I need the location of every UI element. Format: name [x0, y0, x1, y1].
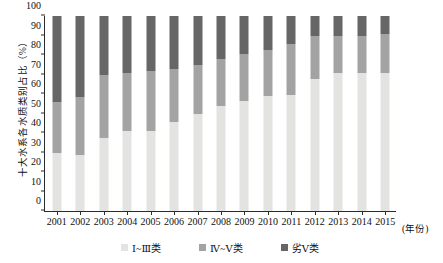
- bar-segment[interactable]: [263, 96, 272, 211]
- bar-segment[interactable]: [146, 131, 155, 211]
- bar-segment[interactable]: [193, 65, 202, 115]
- bar-slot: [162, 16, 185, 211]
- bar-segment[interactable]: [240, 101, 249, 211]
- bar-segment[interactable]: [52, 153, 61, 211]
- bar-segment[interactable]: [287, 95, 296, 211]
- x-tick-mark: [385, 211, 386, 215]
- y-tick-label: 20: [31, 156, 45, 167]
- bar-slot: [68, 16, 91, 211]
- bar-segment[interactable]: [357, 73, 366, 211]
- x-tick-label: 2012: [305, 216, 325, 227]
- bar-slot: [92, 16, 115, 211]
- bar-segment[interactable]: [146, 71, 155, 131]
- x-tick-label: 2010: [258, 216, 278, 227]
- y-tick-label: 60: [31, 78, 45, 89]
- stacked-bar[interactable]: [76, 16, 85, 211]
- stacked-bar[interactable]: [240, 16, 249, 211]
- x-tick-mark: [104, 211, 105, 215]
- bar-segment[interactable]: [123, 73, 132, 132]
- x-tick-mark: [174, 211, 175, 215]
- bar-segment[interactable]: [287, 44, 296, 95]
- bar-segment[interactable]: [381, 16, 390, 34]
- bar-segment[interactable]: [170, 69, 179, 123]
- chart-legend: Ⅰ~Ⅲ类Ⅳ~Ⅴ类劣Ⅴ类: [44, 240, 396, 255]
- x-tick-mark: [198, 211, 199, 215]
- legend-item[interactable]: Ⅳ~Ⅴ类: [199, 240, 243, 255]
- x-tick-mark: [244, 211, 245, 215]
- y-tick-label: 80: [31, 39, 45, 50]
- legend-label: Ⅰ~Ⅲ类: [132, 240, 161, 255]
- bar-series-group: [45, 16, 396, 211]
- bar-segment[interactable]: [123, 16, 132, 73]
- stacked-bar[interactable]: [334, 16, 343, 211]
- stacked-bar[interactable]: [381, 16, 390, 211]
- stacked-bar[interactable]: [146, 16, 155, 211]
- bar-segment[interactable]: [240, 16, 249, 54]
- bar-segment[interactable]: [357, 36, 366, 73]
- bar-segment[interactable]: [381, 34, 390, 73]
- bar-segment[interactable]: [99, 138, 108, 211]
- bar-segment[interactable]: [170, 16, 179, 69]
- x-tick-mark: [57, 211, 58, 215]
- legend-item[interactable]: Ⅰ~Ⅲ类: [121, 240, 161, 255]
- bar-slot: [233, 16, 256, 211]
- stacked-bar[interactable]: [170, 16, 179, 211]
- bar-segment[interactable]: [146, 16, 155, 71]
- y-tick-label: 90: [31, 19, 45, 30]
- bar-segment[interactable]: [216, 106, 225, 211]
- stacked-bar[interactable]: [99, 16, 108, 211]
- bar-segment[interactable]: [216, 16, 225, 59]
- x-tick-mark: [221, 211, 222, 215]
- bar-slot: [374, 16, 397, 211]
- x-tick-mark: [338, 211, 339, 215]
- stacked-bar[interactable]: [216, 16, 225, 211]
- bar-segment[interactable]: [52, 102, 61, 154]
- y-tick-label: 0: [36, 195, 45, 206]
- bar-segment[interactable]: [76, 97, 85, 156]
- bar-slot: [327, 16, 350, 211]
- legend-item[interactable]: 劣Ⅴ类: [281, 240, 319, 255]
- bar-segment[interactable]: [216, 59, 225, 106]
- bar-segment[interactable]: [99, 16, 108, 75]
- stacked-bar[interactable]: [287, 16, 296, 211]
- stacked-bar[interactable]: [52, 16, 61, 211]
- bar-segment[interactable]: [99, 75, 108, 138]
- bar-segment[interactable]: [76, 16, 85, 97]
- bar-segment[interactable]: [334, 16, 343, 36]
- bar-slot: [45, 16, 68, 211]
- bar-segment[interactable]: [263, 16, 272, 50]
- x-tick-label: 2011: [282, 216, 302, 227]
- bar-segment[interactable]: [193, 16, 202, 65]
- bar-segment[interactable]: [334, 73, 343, 211]
- x-tick-label: 2015: [375, 216, 395, 227]
- bar-segment[interactable]: [310, 79, 319, 211]
- y-tick-label: 40: [31, 117, 45, 128]
- bar-segment[interactable]: [381, 73, 390, 211]
- bar-segment[interactable]: [310, 16, 319, 36]
- bar-segment[interactable]: [76, 155, 85, 211]
- bar-segment[interactable]: [334, 36, 343, 73]
- bar-segment[interactable]: [123, 131, 132, 211]
- x-tick-label: 2006: [164, 216, 184, 227]
- x-tick-label: 2008: [211, 216, 231, 227]
- bar-segment[interactable]: [52, 16, 61, 102]
- bar-segment[interactable]: [310, 36, 319, 79]
- stacked-bar[interactable]: [123, 16, 132, 211]
- bar-segment[interactable]: [240, 54, 249, 101]
- legend-swatch-icon: [281, 244, 288, 251]
- bar-segment[interactable]: [263, 50, 272, 96]
- legend-swatch-icon: [121, 244, 128, 251]
- x-tick-mark: [268, 211, 269, 215]
- stacked-bar[interactable]: [310, 16, 319, 211]
- bar-segment[interactable]: [193, 114, 202, 211]
- bar-segment[interactable]: [170, 122, 179, 211]
- legend-swatch-icon: [199, 244, 206, 251]
- bar-segment[interactable]: [287, 16, 296, 44]
- stacked-bar[interactable]: [263, 16, 272, 211]
- stacked-bar[interactable]: [193, 16, 202, 211]
- x-tick-mark: [127, 211, 128, 215]
- bar-slot: [256, 16, 279, 211]
- bar-segment[interactable]: [357, 16, 366, 36]
- x-tick-label: 2009: [234, 216, 254, 227]
- stacked-bar[interactable]: [357, 16, 366, 211]
